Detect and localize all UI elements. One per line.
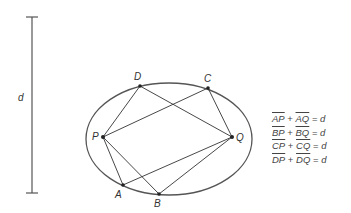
- plus-sign: +: [288, 154, 294, 165]
- segment: BP: [272, 127, 285, 138]
- plus-sign: +: [288, 140, 294, 151]
- equals-sign: =: [312, 127, 318, 138]
- label-q: Q: [236, 132, 244, 143]
- equals-sign: =: [313, 154, 319, 165]
- segment: DP: [272, 154, 285, 165]
- focal-lines: [103, 86, 232, 194]
- point-c: [206, 86, 210, 90]
- label-a: A: [114, 189, 122, 200]
- point-p: [101, 135, 105, 139]
- rhs: d: [320, 113, 325, 124]
- rhs: d: [320, 127, 325, 138]
- plus-sign: +: [287, 127, 293, 138]
- label-b: B: [154, 198, 161, 209]
- equals-sign: =: [312, 113, 318, 124]
- point-d: [138, 84, 142, 88]
- point-b: [157, 192, 161, 196]
- segment: BQ: [296, 127, 310, 138]
- plus-sign: +: [287, 113, 293, 124]
- equation-d: DP + DQ = d: [272, 153, 326, 167]
- equations-block: AP + AQ = d BP + BQ = d CP + CQ = d DP +…: [272, 112, 326, 166]
- segment: CP: [272, 140, 285, 151]
- point-a: [121, 183, 125, 187]
- segment: DQ: [296, 154, 310, 165]
- equation-a: AP + AQ = d: [272, 112, 326, 126]
- rhs: d: [321, 140, 326, 151]
- equals-sign: =: [313, 140, 319, 151]
- segment: AP: [272, 113, 285, 124]
- label-c: C: [204, 73, 212, 84]
- scale-label: d: [18, 92, 24, 103]
- length-scale-bar: [26, 17, 38, 193]
- label-d: D: [134, 71, 141, 82]
- equation-b: BP + BQ = d: [272, 126, 326, 140]
- label-p: P: [92, 131, 99, 142]
- rhs: d: [321, 154, 326, 165]
- segment: AQ: [296, 113, 310, 124]
- point-q: [230, 135, 234, 139]
- equation-c: CP + CQ = d: [272, 139, 326, 153]
- segment: CQ: [296, 140, 310, 151]
- ellipse-diagram: d P Q A B C D: [0, 0, 351, 213]
